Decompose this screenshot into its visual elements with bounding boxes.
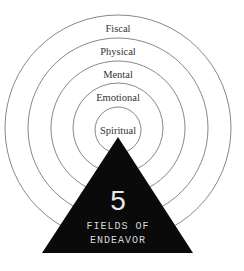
pyramid-caption-line2: ENDEAVOR xyxy=(90,235,146,246)
ring-label-emotional: Emotional xyxy=(96,92,140,103)
ring-label-spiritual: Spiritual xyxy=(100,125,136,136)
pyramid-caption-line1: FIELDS OF xyxy=(86,221,149,232)
pyramid-number: 5 xyxy=(110,185,126,216)
fields-of-endeavor-diagram: Fiscal Physical Mental Emotional Spiritu… xyxy=(0,0,244,271)
ring-label-mental: Mental xyxy=(103,69,133,80)
ring-label-fiscal: Fiscal xyxy=(105,23,130,34)
ring-label-physical: Physical xyxy=(100,46,136,57)
